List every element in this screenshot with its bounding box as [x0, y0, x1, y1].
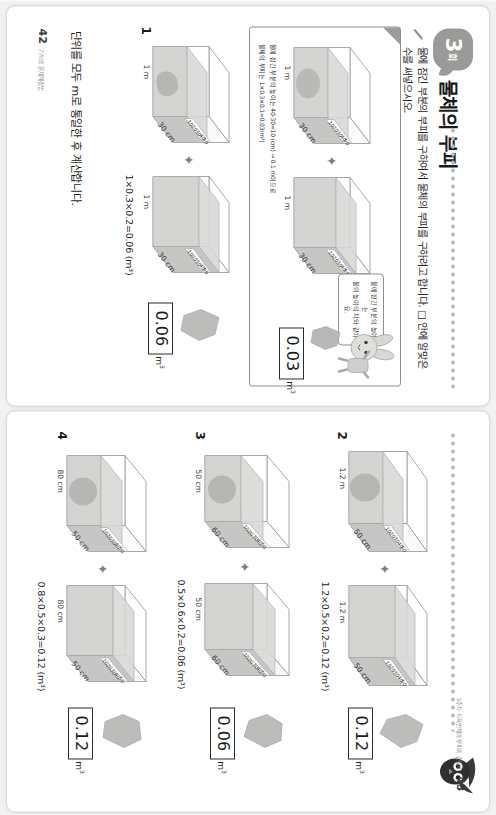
- example-note-line2: 물체의 부피는 1×0.3×0.1=0.03(m³): [258, 43, 267, 142]
- folio-right-text: 3주차 직육면체의 부피와 겉넓이: [454, 697, 464, 771]
- problem-3-number: 3: [193, 431, 207, 439]
- problem-2-plus-sign: ✦: [378, 563, 391, 574]
- problem-4-plus-sign: ✦: [96, 563, 109, 574]
- problem-2-rock-shape: [373, 711, 425, 751]
- problem-3-plus-sign: ✦: [238, 561, 251, 572]
- problem-3-right-width-label: 50 cm: [194, 597, 203, 620]
- right-page: 2 10 20 30: [6, 410, 490, 812]
- problem-3-rock-shape: [237, 711, 285, 751]
- problem-1-plus-sign: ✦: [182, 154, 195, 165]
- problem-2-left-tank: 10 20 30 40 50 1.2 m 50 cm: [341, 447, 431, 555]
- problem-1: 1 10 20 30: [99, 6, 239, 405]
- problem-2-right-width-label: 1.2 m: [338, 601, 347, 623]
- problem-3-answer-unit: m3: [217, 761, 229, 774]
- left-page: 3회 물체의 부피 물에 잠긴 부분의 부피를 구하여서 물체의 부피를 구하려…: [6, 5, 490, 406]
- example-answer-value[interactable]: 0.03: [279, 327, 304, 379]
- example-right-tank: 10 20 30 40 50 1 m 30 cm: [286, 173, 374, 277]
- folio-right-number: 43: [454, 776, 467, 791]
- folio-right: 43 3주차 직육면체의 부피와 겉넓이: [454, 697, 467, 791]
- example-box: 10 20 30 40 50 1 m 30 cm ✦: [249, 26, 401, 386]
- problem-2-right-tank: 10 20 30 40 50 1.2 m 50 cm: [341, 581, 431, 689]
- problem-1-left-tank: 10 20 30 40 50 1 m 30 cm: [145, 42, 233, 146]
- problem-4-left-tank: 10 20 30 40 50 80 cm 50 cm: [59, 451, 151, 555]
- problem-2-left-width-label: 1.2 m: [338, 467, 347, 489]
- lesson-badge-number: 3: [443, 37, 464, 52]
- problem-2: 2 10 20 30: [303, 411, 435, 811]
- problem-3-answer: 0.06 m3: [210, 707, 235, 773]
- right-header-dotted-rule: [451, 431, 455, 731]
- problem-2-answer-unit: m3: [355, 761, 367, 774]
- problem-4-equation: 0.8×0.5×0.3=0.12 (m³): [36, 581, 47, 691]
- example-left-tank: 10 20 30 40 50 1 m 30 cm: [286, 43, 374, 147]
- problem-4-answer-value[interactable]: 0.12: [68, 707, 93, 759]
- problem-4: 4 10 20 30: [15, 411, 155, 811]
- problem-4-answer: 0.12 m3: [68, 707, 93, 773]
- problem-4-right-width-label: 80 cm: [56, 599, 65, 622]
- problem-2-number: 2: [335, 431, 349, 439]
- problem-3: 3 10 20 30: [159, 411, 299, 811]
- header-dotted-rule: [451, 126, 455, 388]
- problem-1-number: 1: [139, 26, 153, 34]
- lesson-badge: 3회: [433, 28, 473, 70]
- problem-3-answer-value[interactable]: 0.06: [210, 707, 235, 759]
- problem-1-answer-unit: m3: [155, 356, 167, 369]
- problem-2-equation: 1.2×0.5×0.2=0.12 (m³): [320, 581, 331, 691]
- example-answer: 0.03 m3: [279, 327, 304, 393]
- example-rock-shape: [304, 323, 342, 353]
- instruction-text: 물에 잠긴 부분의 부피를 구하여서 물체의 부피를 구하려고 합니다. □ 안…: [400, 46, 429, 378]
- example-right-width-label: 1 m: [283, 195, 292, 209]
- folio-left: 42 기적의 문제해결법: [36, 28, 49, 90]
- problem-2-answer-value[interactable]: 0.12: [348, 707, 373, 759]
- example-left-width-label: 1 m: [283, 65, 292, 79]
- problem-1-answer-value[interactable]: 0.06: [148, 302, 173, 354]
- problem-4-left-width-label: 80 cm: [56, 469, 65, 492]
- problem-3-right-tank: 10 20 30 40 50 50 cm 60 cm: [197, 579, 295, 679]
- pencil-icon: [409, 28, 428, 41]
- example-answer-unit: m3: [286, 381, 298, 394]
- problem-4-right-tank: 10 20 30 40 50 80 cm 50 cm: [59, 581, 151, 685]
- instruction-block: 물에 잠긴 부분의 부피를 구하여서 물체의 부피를 구하려고 합니다. □ 안…: [400, 28, 429, 378]
- problem-1-left-width-label: 1 m: [142, 64, 151, 78]
- page-title: 물체의 부피: [433, 79, 463, 168]
- workbook-spread: 3회 물체의 부피 물에 잠긴 부분의 부피를 구하여서 물체의 부피를 구하려…: [0, 0, 496, 815]
- lesson-badge-unit: 회: [447, 53, 460, 61]
- problem-4-answer-unit: m3: [75, 761, 87, 774]
- example-plus-sign: ✦: [325, 155, 338, 166]
- footer-note: 단위를 모두 m로 통일한 후 계산합니다.: [69, 30, 85, 205]
- problem-3-left-width-label: 50 cm: [194, 469, 203, 492]
- problem-4-rock-shape: [95, 711, 143, 751]
- problem-1-right-tank: 10 20 30 40 50 1 m 30 cm: [145, 172, 233, 276]
- folio-left-text: 기적의 문제해결법: [36, 48, 46, 90]
- folio-left-number: 42: [36, 28, 49, 43]
- problem-1-right-width-label: 1 m: [142, 194, 151, 208]
- example-corner-marker: [383, 27, 400, 44]
- problem-4-number: 4: [55, 431, 69, 439]
- problem-1-rock-shape: [173, 306, 221, 344]
- problem-1-answer: 0.06 m3: [148, 302, 173, 368]
- problem-2-answer: 0.12 m3: [348, 707, 373, 773]
- example-note-line1: 물에 잠긴 부분의 높이는 40-30=10 (cm) → 0.1 m이므로: [269, 43, 278, 193]
- problem-1-equation: 1×0.3×0.2=0.06 (m³): [124, 174, 135, 275]
- problem-3-equation: 0.5×0.6×0.2=0.06 (m³): [176, 579, 187, 689]
- rotated-page-stage: 3회 물체의 부피 물에 잠긴 부분의 부피를 구하여서 물체의 부피를 구하려…: [0, 0, 496, 815]
- problem-3-left-tank: 10 20 30 40 50 50 cm 60 cm: [197, 451, 295, 551]
